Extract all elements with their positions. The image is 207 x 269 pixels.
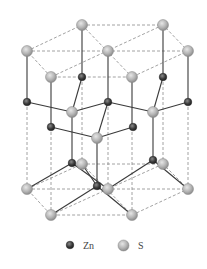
zn-atom	[184, 98, 192, 106]
zn-atom	[159, 73, 167, 81]
s-atom	[183, 184, 194, 195]
s-atom	[92, 133, 103, 144]
s-atom	[183, 46, 194, 57]
zn-atom	[23, 98, 31, 106]
legend-label-s: S	[138, 240, 144, 251]
s-atom	[103, 184, 114, 195]
s-atom	[46, 72, 57, 83]
s-atom	[46, 210, 57, 221]
zn-atom	[47, 123, 55, 131]
zn-atom	[68, 159, 76, 167]
atoms	[22, 20, 194, 221]
zn-atom	[78, 73, 86, 81]
s-atom	[103, 46, 114, 57]
s-atom	[127, 210, 138, 221]
s-atom	[158, 20, 169, 31]
zn-atom	[104, 98, 112, 106]
zn-atom	[93, 182, 101, 190]
s-atom	[22, 184, 33, 195]
s-atom	[67, 107, 78, 118]
s-atom	[22, 46, 33, 57]
s-atom	[127, 72, 138, 83]
legend-label-zn: Zn	[83, 240, 94, 251]
wurtzite-zns-structure-diagram	[0, 0, 207, 269]
s-atom	[148, 107, 159, 118]
s-atom-icon	[117, 239, 130, 252]
legend-item-zn: Zn	[65, 237, 94, 253]
zn-atom-icon	[65, 240, 75, 250]
zn-atom	[149, 156, 157, 164]
s-atom	[77, 159, 88, 170]
zn-atom	[129, 123, 137, 131]
s-atom	[158, 159, 169, 170]
legend-item-s: S	[117, 237, 144, 253]
s-atom	[77, 20, 88, 31]
legend: Zn S	[0, 237, 207, 255]
